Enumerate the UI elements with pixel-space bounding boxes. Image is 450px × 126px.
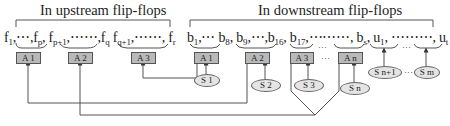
downstream-group-a1: A 1 [194,52,219,64]
ellipsis-sources: … [404,65,413,75]
upstream-group-a1: A 1 [16,52,41,64]
downstream-group-a2: A 2 [245,52,270,64]
upstream-title: In upstream flip-flops [40,2,166,19]
ellipsis-braces-2: … [402,40,411,50]
ellipsis-groups: … [321,51,330,61]
downstream-title: In downstream flip-flops [258,2,402,19]
source-sn: S n [340,82,370,95]
upstream-group-a3: A 3 [131,52,156,64]
upstream-bracket [16,20,170,27]
downstream-group-an: A n [338,52,363,64]
ellipsis-braces-1: … [318,40,327,50]
source-sm: S m [414,66,440,79]
source-s3: S 3 [294,79,324,92]
source-sn-plus-1: S n+1 [368,66,402,79]
upstream-group-a2: A 2 [68,52,93,64]
downstream-group-a3: A 3 [290,52,314,64]
source-s2: S 2 [251,79,281,92]
downstream-bracket [190,20,433,27]
source-s1: S 1 [194,74,220,87]
upstream-sequence: f1,⋯,fp, fp+1,⋯⋯,fq fq+1,⋯⋯, fr [4,29,176,46]
